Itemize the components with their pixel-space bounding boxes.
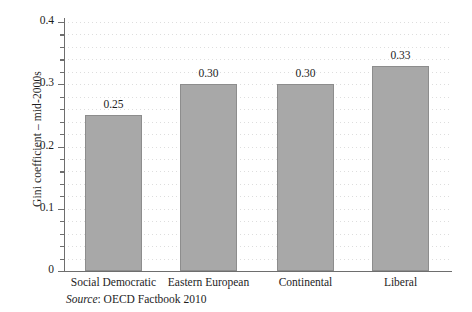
- y-axis-tick-label: 0.3: [18, 76, 54, 88]
- y-axis-minor-tick: [60, 259, 65, 260]
- source-label: Source: [66, 293, 98, 305]
- y-axis-minor-tick: [60, 134, 65, 135]
- bar-value-label: 0.30: [257, 67, 354, 79]
- x-axis-category-label: Liberal: [341, 276, 461, 288]
- y-axis-minor-tick: [60, 47, 65, 48]
- y-axis-minor-tick: [60, 122, 65, 123]
- bar-value-label: 0.25: [65, 98, 162, 110]
- bar-chart-figure: Gini coefficient – mid-2000s 00.10.20.30…: [0, 0, 472, 312]
- y-axis-minor-tick: [60, 246, 65, 247]
- y-axis-tick: [58, 22, 65, 23]
- y-axis-minor-tick: [60, 171, 65, 172]
- bar: [180, 84, 237, 271]
- y-axis-tick: [58, 147, 65, 148]
- y-axis-tick-labels: 00.10.20.30.4: [14, 0, 54, 312]
- y-axis-minor-tick: [60, 59, 65, 60]
- y-axis-minor-tick: [60, 196, 65, 197]
- gridline: [64, 34, 452, 35]
- bar-value-label: 0.30: [160, 67, 257, 79]
- y-axis-minor-tick: [60, 34, 65, 35]
- y-axis-tick: [58, 209, 65, 210]
- y-axis-minor-tick: [60, 159, 65, 160]
- y-axis-minor-tick: [60, 221, 65, 222]
- y-axis-tick-label: 0.2: [18, 139, 54, 151]
- bar: [85, 115, 142, 271]
- bar: [277, 84, 334, 271]
- y-axis-minor-tick: [60, 97, 65, 98]
- source-text: OECD Factbook 2010: [104, 293, 207, 305]
- y-axis-minor-tick: [60, 72, 65, 73]
- y-axis-tick-label: 0: [18, 263, 54, 275]
- y-axis-tick: [58, 84, 65, 85]
- y-axis-minor-tick: [60, 109, 65, 110]
- y-axis-tick-label: 0.1: [18, 201, 54, 213]
- source-note: Source: OECD Factbook 2010: [66, 293, 206, 305]
- gridline: [64, 22, 452, 23]
- y-axis-minor-tick: [60, 234, 65, 235]
- bar-value-label: 0.33: [352, 49, 449, 61]
- bar: [372, 66, 429, 271]
- y-axis-tick: [58, 271, 65, 272]
- y-axis-tick-label: 0.4: [18, 14, 54, 26]
- y-axis-minor-tick: [60, 184, 65, 185]
